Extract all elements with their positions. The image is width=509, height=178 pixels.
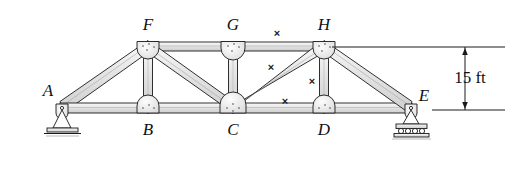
gusset-joint-H (313, 42, 335, 60)
truss-diagram-figure: A B C D E F G H × × × × 15 ft (0, 0, 509, 178)
member-A-B (60, 103, 149, 113)
section-mark-1: × (274, 27, 280, 39)
gusset-joint-B (137, 95, 159, 113)
figure-background (0, 0, 509, 178)
dimension-label-15ft: 15 ft (454, 68, 486, 87)
joint-label-F: F (142, 15, 154, 34)
section-mark-4: × (282, 95, 288, 107)
joint-label-D: D (317, 120, 331, 139)
gusset-joint-C (220, 92, 246, 113)
joint-label-G: G (227, 15, 239, 34)
gusset-joint-D (313, 95, 335, 113)
joint-label-H: H (317, 15, 332, 34)
truss-svg-canvas: A B C D E F G H × × × × 15 ft (0, 0, 509, 178)
joint-label-E: E (418, 86, 430, 105)
gusset-joint-F (137, 42, 159, 60)
section-mark-2: × (268, 61, 274, 73)
joint-label-A: A (42, 81, 54, 100)
joint-label-B: B (143, 120, 154, 139)
section-mark-3: × (309, 75, 315, 87)
joint-label-C: C (227, 120, 239, 139)
